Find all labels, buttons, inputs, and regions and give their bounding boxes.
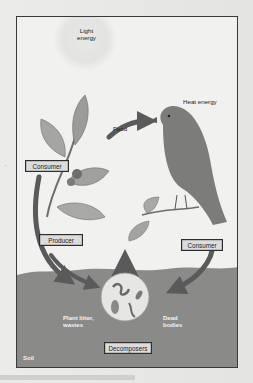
plant-litter-label: Plant litter, wastes <box>63 315 94 329</box>
heat-energy-label: Heat energy <box>183 98 217 105</box>
stray-mark: · <box>5 162 7 168</box>
light-energy-line2: energy <box>77 34 96 41</box>
cycle-diagram-frame: Light energy Heat energy Food Plant litt… <box>16 16 238 368</box>
consumer-left-box: Consumer <box>25 160 69 172</box>
plant-illustration <box>41 95 109 220</box>
plant-litter-line1: Plant litter, <box>63 315 94 322</box>
cycle-diagram-illustration <box>17 17 238 368</box>
light-energy-line1: Light <box>77 27 96 34</box>
consumer-to-decomposer-arrow <box>35 177 67 279</box>
food-label: Food <box>113 125 127 132</box>
light-energy-label: Light energy <box>77 27 96 41</box>
plant-litter-line2: wastes <box>63 322 94 329</box>
decomposers-box: Decomposers <box>104 342 152 354</box>
soil-label: Soil <box>23 355 34 362</box>
bird-illustration <box>129 106 227 241</box>
dead-bodies-line1: Dead <box>163 315 182 322</box>
sun-icon <box>53 17 117 71</box>
producer-box: Producer <box>39 234 83 246</box>
decomposer-magnified-view <box>101 273 149 321</box>
bottom-strip <box>0 375 135 380</box>
dead-bodies-label: Dead bodies <box>163 315 182 329</box>
dead-bodies-line2: bodies <box>163 322 182 329</box>
consumer-right-box: Consumer <box>181 239 223 251</box>
